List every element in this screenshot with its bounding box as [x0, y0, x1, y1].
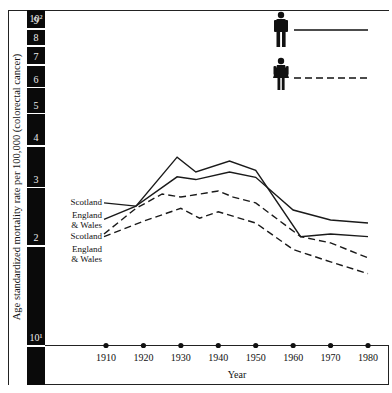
x-tick-dot	[328, 343, 333, 348]
label-england-male-line1: England	[72, 210, 102, 220]
male-figure-icon	[274, 12, 288, 47]
label-england-female-line1: England	[72, 244, 102, 254]
label-scotland-female: Scotland	[62, 232, 102, 242]
label-england-female: England& Wales	[62, 245, 102, 264]
x-tick-dot	[253, 343, 258, 348]
x-tick-dot	[141, 343, 146, 348]
label-england-male-line2: & Wales	[71, 220, 102, 230]
x-tick-dot	[365, 343, 370, 348]
x-tick-dot	[216, 343, 221, 348]
x-tick-dot	[103, 343, 108, 348]
label-england-male: England& Wales	[62, 211, 102, 230]
series-line	[104, 208, 368, 273]
label-scotland-male: Scotland	[62, 198, 102, 208]
legend	[273, 12, 368, 90]
female-figure-icon	[273, 58, 289, 90]
label-england-female-line2: & Wales	[71, 254, 102, 264]
plot-area	[0, 0, 392, 393]
series-line	[104, 157, 368, 237]
x-tick-dot	[291, 343, 296, 348]
x-tick-dot	[178, 343, 183, 348]
